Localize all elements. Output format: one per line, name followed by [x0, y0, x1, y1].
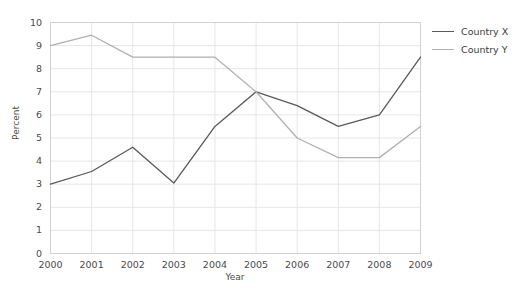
legend-item-label: Country Y [461, 44, 508, 55]
x-axis-tick-label: 2008 [359, 260, 399, 270]
y-axis-tick-label: 4 [20, 156, 42, 166]
x-axis-tick-label: 2007 [318, 260, 358, 270]
x-axis-tick-label: 2009 [401, 260, 441, 270]
x-axis-tick-label: 2000 [31, 260, 71, 270]
series-line-1 [51, 57, 421, 184]
legend-item[interactable]: Country X [432, 22, 518, 40]
y-axis-tick-label: 0 [20, 249, 42, 259]
y-axis-tick-label: 2 [20, 202, 42, 212]
legend-line-swatch [432, 49, 454, 50]
legend-item[interactable]: Country Y [432, 40, 518, 58]
y-axis-tick-label: 5 [20, 133, 42, 143]
y-axis-tick-label: 3 [20, 179, 42, 189]
chart-legend: Country XCountry Y [432, 22, 518, 58]
series-line-2 [51, 35, 421, 157]
series-lines [51, 35, 421, 184]
x-axis-tick-label: 2004 [195, 260, 235, 270]
x-axis-tick-label: 2002 [113, 260, 153, 270]
legend-line-swatch [432, 31, 454, 32]
legend-item-label: Country X [461, 26, 508, 37]
y-axis-tick-label: 7 [20, 87, 42, 97]
x-axis-tick-label: 2006 [277, 260, 317, 270]
y-axis-tick-label: 10 [20, 18, 42, 28]
y-axis-tick-label: 6 [20, 110, 42, 120]
x-axis-title: Year [50, 272, 420, 282]
line-chart: 012345678910 200020012002200320042005200… [0, 0, 521, 298]
gridlines [51, 23, 421, 254]
y-axis-tick-label: 8 [20, 64, 42, 74]
y-axis-tick-label: 9 [20, 41, 42, 51]
x-axis-tick-label: 2001 [72, 260, 112, 270]
y-axis-tick-label: 1 [20, 225, 42, 235]
y-axis-title: Percent [11, 93, 21, 153]
x-axis-tick-label: 2005 [236, 260, 276, 270]
x-axis-tick-label: 2003 [154, 260, 194, 270]
